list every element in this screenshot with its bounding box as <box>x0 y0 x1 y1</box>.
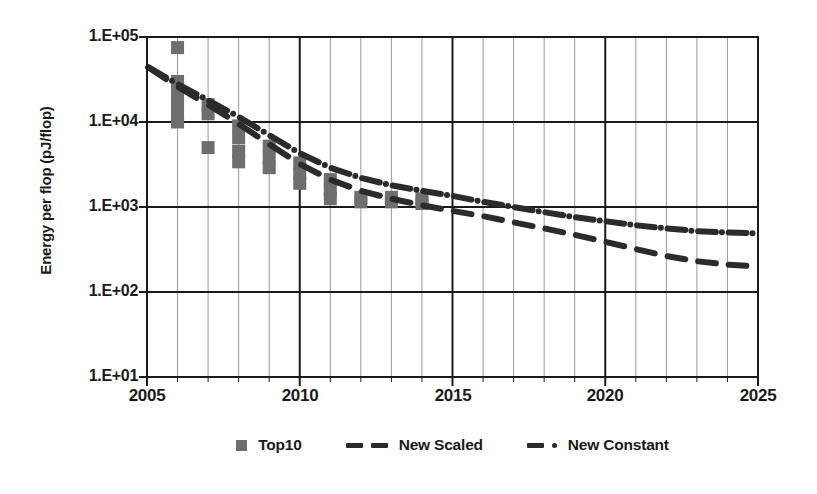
dash-segment <box>346 443 363 448</box>
legend-label: New Scaled <box>399 436 483 454</box>
x-tick-label: 2020 <box>570 386 640 406</box>
dash-segment <box>527 443 544 448</box>
plot-area <box>0 0 817 494</box>
legend-label: Top10 <box>258 436 302 454</box>
legend-item-new-scaled: New Scaled <box>346 436 483 454</box>
chart-legend: Top10 New Scaled New Constant <box>147 436 758 454</box>
chart-container: Energy per flop (pJ/flop) 1.E+05 1.E+04 … <box>0 0 817 494</box>
x-axis-ticks <box>139 37 758 386</box>
legend-item-new-constant: New Constant <box>527 436 669 454</box>
dash-segment <box>371 443 388 448</box>
x-tick-label: 2015 <box>418 386 488 406</box>
dot-segment <box>552 443 557 448</box>
dash-dot-line-icon <box>527 443 557 448</box>
legend-item-top10: Top10 <box>236 436 302 454</box>
dashed-line-icon <box>346 443 388 448</box>
x-tick-label: 2010 <box>265 386 335 406</box>
x-tick-label: 2005 <box>112 386 182 406</box>
square-marker-icon <box>236 440 247 451</box>
x-tick-label: 2025 <box>723 386 793 406</box>
legend-label: New Constant <box>568 436 669 454</box>
